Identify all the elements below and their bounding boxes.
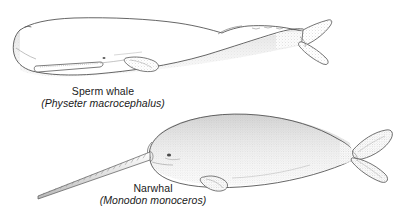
narwhal-eye: [167, 153, 171, 156]
illustration-canvas: [0, 0, 419, 214]
whale-illustration-figure: Sperm whale (Physeter macrocephalus) Nar…: [0, 0, 419, 214]
sperm-whale-eye: [103, 57, 106, 59]
